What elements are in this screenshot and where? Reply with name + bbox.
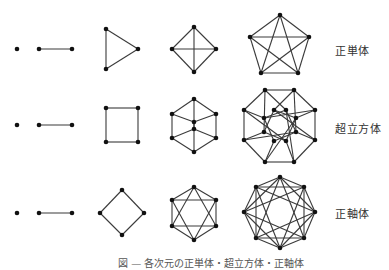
- vertex: [242, 138, 247, 143]
- edge: [294, 90, 315, 110]
- edge: [194, 27, 216, 49]
- vertex: [284, 108, 289, 113]
- edge: [122, 213, 144, 235]
- vertex: [284, 139, 289, 144]
- edge: [172, 138, 194, 152]
- vertex: [292, 160, 297, 165]
- edge: [122, 190, 144, 213]
- edge: [280, 15, 298, 73]
- vertex: [170, 136, 175, 141]
- 0-orthoplex-point: [15, 211, 20, 216]
- vertex: [294, 116, 299, 121]
- edge: [194, 49, 216, 72]
- vertex: [15, 47, 20, 52]
- edge: [106, 29, 138, 49]
- vertex: [262, 116, 267, 121]
- edge: [244, 90, 265, 110]
- vertex: [104, 27, 109, 32]
- 1-orthoplex-segment: [37, 211, 75, 216]
- row-label-simplex: 正単体: [335, 42, 370, 58]
- vertex: [302, 185, 307, 190]
- edge: [298, 37, 309, 73]
- edge: [172, 49, 194, 72]
- vertex: [142, 211, 147, 216]
- edge: [194, 138, 216, 152]
- vertex: [272, 139, 277, 144]
- vertex: [70, 123, 75, 128]
- vertex: [296, 71, 301, 76]
- vertex: [263, 160, 268, 165]
- vertex: [272, 108, 277, 113]
- vertex: [136, 47, 141, 52]
- edge: [250, 15, 280, 37]
- vertex: [313, 138, 318, 143]
- vertex: [98, 211, 103, 216]
- vertex: [278, 246, 283, 251]
- edge: [172, 129, 194, 138]
- vertex: [170, 112, 175, 117]
- 0-cube-point: [15, 123, 20, 128]
- vertex: [104, 140, 109, 145]
- edge: [100, 190, 122, 213]
- figure-caption: 図 — 各次元の正単体・超立方体・正軸体: [118, 255, 304, 270]
- vertex: [278, 175, 283, 180]
- vertex: [37, 123, 42, 128]
- vertex: [170, 224, 175, 229]
- vertex: [170, 198, 175, 203]
- vertex: [104, 67, 109, 72]
- vertex: [214, 224, 219, 229]
- vertex: [136, 106, 141, 111]
- vertex: [294, 130, 299, 135]
- vertex: [278, 13, 283, 18]
- vertex: [192, 238, 197, 243]
- vertex: [37, 211, 42, 216]
- 1-cube-segment: [37, 123, 75, 128]
- edge: [250, 37, 261, 73]
- row-label-orthoplex: 正軸体: [335, 205, 370, 221]
- vertex: [313, 108, 318, 113]
- vertex: [192, 97, 197, 102]
- edge: [172, 114, 194, 122]
- 4-cube-tesseract: [242, 88, 318, 165]
- edge: [294, 140, 315, 162]
- vertex: [70, 211, 75, 216]
- 0-simplex-point: [15, 47, 20, 52]
- vertex: [292, 88, 297, 93]
- edge: [265, 90, 286, 110]
- vertex: [136, 140, 141, 145]
- vertex: [259, 71, 264, 76]
- vertex: [214, 136, 219, 141]
- edge: [274, 90, 294, 110]
- vertex: [254, 185, 259, 190]
- edge: [194, 129, 216, 138]
- 1-simplex-segment: [37, 47, 75, 52]
- vertex: [248, 35, 253, 40]
- vertex: [214, 198, 219, 203]
- vertex: [242, 210, 247, 215]
- vertex: [192, 185, 197, 190]
- vertex: [15, 123, 20, 128]
- edge: [274, 110, 315, 140]
- vertex: [214, 47, 219, 52]
- edge: [280, 15, 309, 37]
- vertex: [302, 236, 307, 241]
- 3-orthoplex-octahedron: [170, 185, 219, 243]
- edge: [194, 114, 216, 122]
- 3-simplex-tetrahedron: [170, 25, 219, 75]
- edge: [172, 27, 194, 49]
- 4-orthoplex-16-cell: [242, 175, 318, 251]
- vertex: [313, 210, 318, 215]
- vertex: [254, 236, 259, 241]
- vertex: [192, 120, 197, 125]
- edge: [261, 37, 309, 73]
- vertex: [120, 233, 125, 238]
- vertex: [192, 127, 197, 132]
- vertex: [192, 70, 197, 75]
- edge: [194, 99, 216, 114]
- row-label-hypercube: 超立方体: [335, 120, 381, 136]
- edge: [280, 187, 304, 248]
- 3-cube: [170, 97, 219, 155]
- 2-simplex-triangle: [104, 27, 141, 72]
- vertex: [170, 47, 175, 52]
